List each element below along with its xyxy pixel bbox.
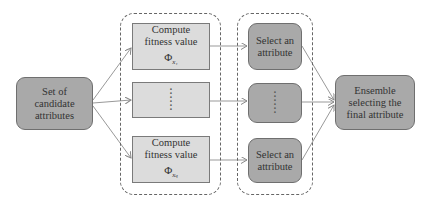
select-attribute-ellipsis-node: ······ bbox=[248, 83, 302, 123]
select-attribute-node-1: Select an attribute bbox=[248, 23, 302, 70]
node-label: Select an bbox=[256, 35, 294, 47]
node-label: attribute bbox=[258, 47, 293, 59]
ensemble-final-attribute-node: Ensemble selecting the final attribute bbox=[335, 75, 415, 130]
node-label: selecting the bbox=[349, 97, 402, 109]
phi-subscript: x₁ bbox=[172, 59, 178, 67]
phi-symbol: Φx₁ bbox=[164, 51, 178, 68]
node-label: Select an bbox=[256, 149, 294, 161]
candidate-attributes-node: Set of candidate attributes bbox=[16, 77, 93, 130]
node-label: Compute bbox=[152, 24, 191, 36]
node-label: attributes bbox=[35, 110, 74, 122]
node-label: candidate bbox=[34, 98, 74, 110]
phi-symbol: Φxq bbox=[164, 164, 178, 182]
compute-fitness-node-q: Compute fitness value Φxq bbox=[132, 136, 210, 183]
node-label: attribute bbox=[258, 161, 293, 173]
node-label: fitness value bbox=[145, 149, 198, 161]
select-attribute-node-q: Select an attribute bbox=[248, 138, 302, 183]
node-label: final attribute bbox=[347, 109, 404, 121]
compute-fitness-ellipsis-node: ······ bbox=[132, 82, 210, 118]
compute-fitness-node-1: Compute fitness value Φx₁ bbox=[132, 23, 210, 70]
phi-glyph: Φ bbox=[164, 164, 172, 176]
node-label: Compute bbox=[152, 137, 191, 149]
node-label: Set of bbox=[42, 86, 67, 98]
node-label: Ensemble bbox=[354, 85, 395, 97]
node-label: fitness value bbox=[145, 36, 198, 48]
phi-subscript: xq bbox=[172, 171, 178, 179]
vertical-ellipsis-icon: ······ bbox=[273, 91, 276, 115]
vertical-ellipsis-icon: ······ bbox=[169, 88, 172, 112]
